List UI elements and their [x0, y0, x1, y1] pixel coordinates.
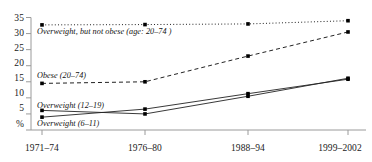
x-tick-label-1999-2002: 1999–2002 [318, 143, 362, 153]
chart-plot-area [0, 0, 372, 162]
y-tick-label-percent: % [4, 119, 24, 129]
y-tick-label-15: 15 [4, 73, 24, 83]
y-tick-label-5: 5 [4, 103, 24, 113]
y-tick-label-30: 30 [4, 28, 24, 38]
x-tick-label-1971-74: 1971–74 [25, 143, 59, 153]
series-label-overweight-not-obese: Overweight, but not obese (age: 20–74 ) [37, 27, 172, 36]
x-tick-label-1976-80: 1976–80 [128, 143, 162, 153]
y-tick-label-10: 10 [4, 88, 24, 98]
series-label-overweight-12-19: Overweight (12–19) [37, 101, 104, 110]
y-tick-label-25: 25 [4, 43, 24, 53]
series-label-obese: Obese (20–74) [37, 71, 86, 80]
y-tick-label-20: 20 [4, 58, 24, 68]
y-tick-label-35: 35 [4, 13, 24, 23]
chart-container: 35 30 25 20 15 10 5 % 1971–74 1976–80 19… [0, 0, 372, 162]
series-label-overweight-6-11: Overweight (6–11) [37, 119, 99, 128]
x-tick-label-1988-94: 1988–94 [231, 143, 265, 153]
